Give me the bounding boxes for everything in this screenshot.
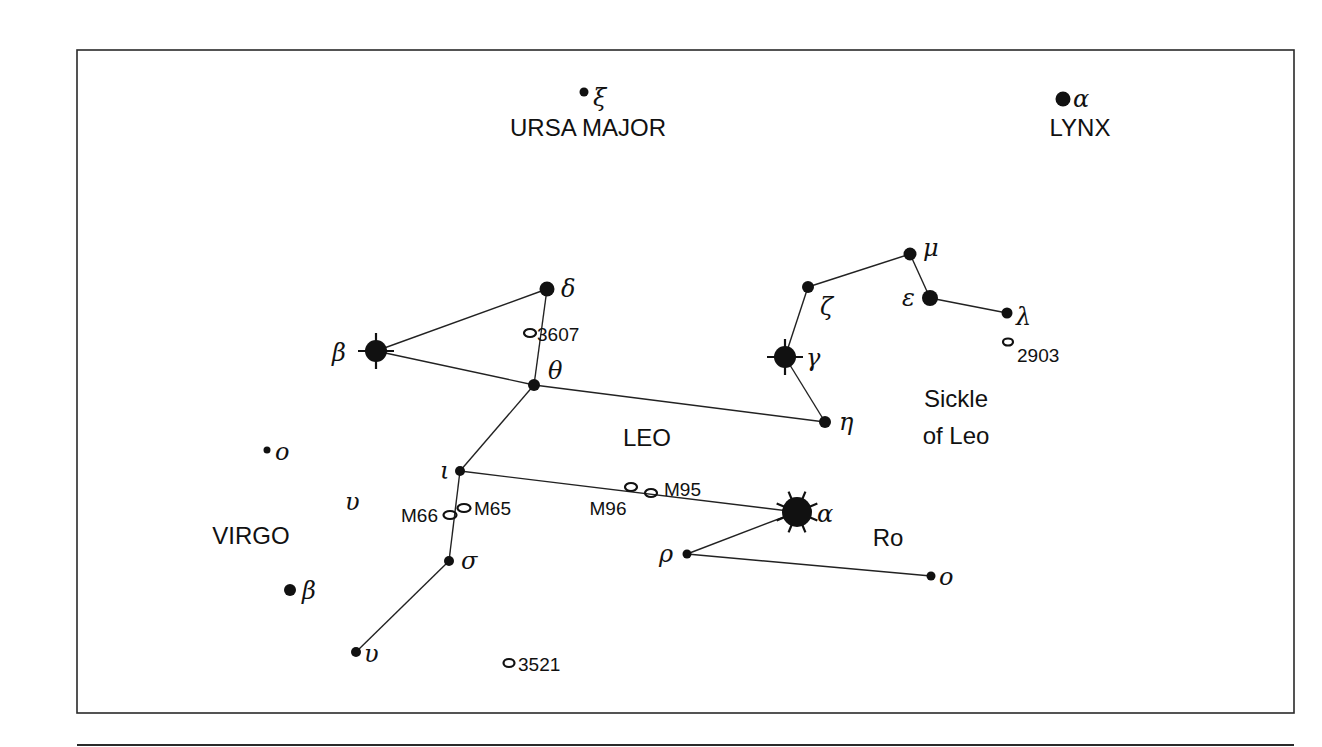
constellation-line bbox=[376, 351, 534, 385]
star-greek-label: ρ bbox=[658, 540, 673, 568]
star-dot-icon bbox=[528, 379, 540, 391]
star-vir-omicron bbox=[264, 447, 271, 454]
star-greek-label: σ bbox=[461, 547, 478, 575]
star-leo-alpha bbox=[777, 492, 818, 533]
star-dot-icon bbox=[264, 447, 271, 454]
star-dot-icon bbox=[927, 572, 936, 581]
annotation-label: Sickle bbox=[924, 385, 988, 412]
star-dot-icon bbox=[802, 281, 814, 293]
star-greek-label: υ bbox=[364, 640, 379, 668]
galaxy-marker-icon bbox=[1003, 339, 1013, 346]
star-dot-icon bbox=[1056, 92, 1071, 107]
star-greek-label: ξ bbox=[593, 84, 608, 112]
star-greek-label: α bbox=[1073, 85, 1089, 113]
star-dot-icon bbox=[351, 647, 361, 657]
star-greek-label: ι bbox=[440, 457, 449, 485]
galaxy-marker-icon bbox=[524, 329, 536, 337]
deep-sky-object-label: 3521 bbox=[518, 654, 560, 675]
constellation-line bbox=[808, 254, 910, 287]
chart-frame bbox=[77, 50, 1294, 713]
galaxy-marker-icon bbox=[625, 483, 637, 491]
star-greek-label: υ bbox=[345, 488, 360, 516]
deep-sky-object-label: M95 bbox=[664, 479, 701, 500]
bright-star-icon bbox=[774, 346, 796, 368]
deep-sky-objects bbox=[444, 329, 1014, 667]
star-vir-beta bbox=[284, 584, 296, 596]
star-leo-gamma bbox=[767, 339, 803, 375]
star-leo-lambda bbox=[1002, 308, 1013, 319]
star-greek-label: μ bbox=[923, 234, 939, 262]
star-leo-rho bbox=[683, 550, 692, 559]
star-dot-icon bbox=[540, 282, 555, 297]
constellation-name: VIRGO bbox=[212, 522, 289, 549]
star-greek-label: β bbox=[331, 339, 346, 367]
star-dot-icon bbox=[444, 556, 454, 566]
star-dot-icon bbox=[922, 290, 938, 306]
bright-star-icon bbox=[365, 340, 387, 362]
star-leo-eta bbox=[819, 416, 831, 428]
deep-sky-object-label: 3607 bbox=[537, 324, 579, 345]
annotation-label: Ro bbox=[873, 524, 904, 551]
deep-sky-object-label: M66 bbox=[401, 505, 438, 526]
star-greek-label: o bbox=[275, 438, 289, 466]
constellation-line bbox=[534, 385, 825, 422]
star-dot-icon bbox=[904, 248, 917, 261]
constellation-line bbox=[785, 287, 808, 357]
star-leo-beta bbox=[358, 333, 394, 369]
star-leo-omicron bbox=[927, 572, 936, 581]
star-vir-upsilon bbox=[351, 647, 361, 657]
deep-sky-object-label: M65 bbox=[474, 498, 511, 519]
star-greek-label: o bbox=[939, 563, 953, 591]
star-dot-icon bbox=[683, 550, 692, 559]
star-leo-theta bbox=[528, 379, 540, 391]
annotation-label: of Leo bbox=[923, 422, 990, 449]
star-dot-icon bbox=[455, 466, 465, 476]
constellation-line bbox=[356, 561, 449, 652]
star-leo-sigma bbox=[444, 556, 454, 566]
galaxy-marker-icon bbox=[645, 489, 657, 497]
constellation-line bbox=[687, 554, 931, 576]
constellation-line bbox=[376, 289, 547, 351]
star-chart: 36072903M65M66M96M953521ξαδβθμζελγηισραo… bbox=[0, 0, 1322, 747]
constellation-name: LYNX bbox=[1050, 114, 1111, 141]
star-greek-label: γ bbox=[806, 344, 821, 372]
star-leo-epsilon bbox=[922, 290, 938, 306]
star-leo-mu bbox=[904, 248, 917, 261]
star-dot-icon bbox=[819, 416, 831, 428]
deep-sky-object-label: 2903 bbox=[1017, 345, 1059, 366]
star-lyn-alpha bbox=[1056, 92, 1071, 107]
constellation-name: URSA MAJOR bbox=[510, 114, 666, 141]
star-greek-label: α bbox=[817, 500, 833, 528]
star-leo-zeta bbox=[802, 281, 814, 293]
constellation-line bbox=[449, 471, 460, 561]
star-dot-icon bbox=[1002, 308, 1013, 319]
constellation-line bbox=[460, 385, 534, 471]
galaxy-marker-icon bbox=[504, 659, 515, 667]
first-magnitude-star-icon bbox=[782, 497, 812, 527]
star-greek-label: δ bbox=[561, 275, 575, 303]
star-uma-xi bbox=[580, 88, 589, 97]
constellation-name: LEO bbox=[623, 424, 671, 451]
constellation-lines bbox=[356, 254, 1007, 652]
deep-sky-object-label: M96 bbox=[590, 498, 627, 519]
star-greek-label: ζ bbox=[820, 293, 835, 321]
star-greek-label: θ bbox=[548, 357, 563, 385]
star-leo-delta bbox=[540, 282, 555, 297]
star-leo-iota bbox=[455, 466, 465, 476]
constellation-line bbox=[930, 298, 1007, 313]
star-greek-label: λ bbox=[1015, 303, 1031, 331]
labels: 36072903M65M66M96M953521ξαδβθμζελγηισραo… bbox=[212, 84, 1110, 675]
star-greek-label: β bbox=[301, 577, 316, 605]
star-greek-label: ε bbox=[902, 284, 915, 312]
star-dot-icon bbox=[580, 88, 589, 97]
star-dot-icon bbox=[284, 584, 296, 596]
star-greek-label: η bbox=[839, 408, 854, 436]
galaxy-marker-icon bbox=[458, 504, 471, 512]
